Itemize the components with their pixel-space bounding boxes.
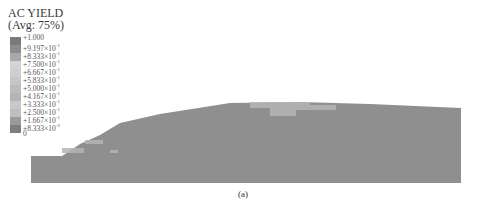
- figure-caption: (a): [238, 189, 248, 199]
- contour-plot: [0, 0, 477, 206]
